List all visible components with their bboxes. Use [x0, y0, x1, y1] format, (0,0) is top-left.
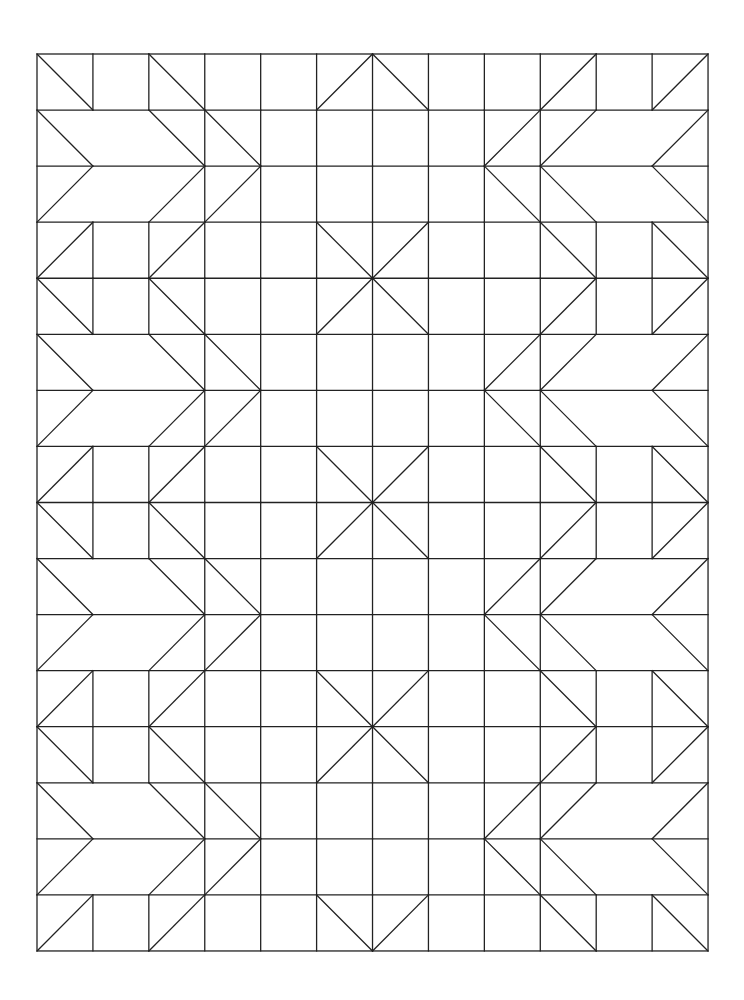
diagonal-line: [652, 446, 708, 502]
diagonal-line: [540, 110, 596, 166]
diagonal-line: [205, 839, 261, 895]
diagonal-line: [540, 727, 596, 783]
diagonal-line: [652, 783, 708, 839]
diagonal-line: [540, 446, 596, 502]
diagonal-line: [652, 166, 708, 222]
diagonal-line: [205, 615, 261, 671]
diagonal-line: [317, 278, 373, 334]
diagonal-line: [373, 278, 429, 334]
diagonal-line: [149, 502, 205, 558]
diagonal-line: [205, 110, 261, 166]
diagonal-line: [37, 727, 93, 783]
diagonal-line: [540, 502, 596, 558]
diagonal-line: [37, 615, 93, 671]
diagonal-line: [37, 166, 93, 222]
diagonal-line: [149, 166, 205, 222]
diagonal-line: [205, 390, 261, 446]
diagonal-line: [373, 671, 429, 727]
diagonal-line: [652, 671, 708, 727]
diagonal-line: [484, 559, 540, 615]
diagonal-line: [37, 559, 93, 615]
diagonal-line: [652, 615, 708, 671]
diagonal-line: [149, 559, 205, 615]
diagonal-line: [540, 839, 596, 895]
diagonal-line: [540, 559, 596, 615]
diagonal-line: [484, 390, 540, 446]
diagonal-line: [205, 334, 261, 390]
diagonal-line: [652, 222, 708, 278]
diagonal-line: [373, 446, 429, 502]
diagonal-line: [373, 54, 429, 110]
diagonal-line: [149, 895, 205, 951]
diagonal-line: [205, 559, 261, 615]
diagonal-line: [149, 727, 205, 783]
diagonal-line: [652, 727, 708, 783]
diagonal-line: [37, 839, 93, 895]
diagonal-line: [149, 54, 205, 110]
diagonal-line: [149, 390, 205, 446]
diagonal-line: [540, 54, 596, 110]
diagonal-line: [37, 783, 93, 839]
diagonal-line: [540, 895, 596, 951]
diagonal-line: [37, 334, 93, 390]
diagonal-line: [149, 278, 205, 334]
diagonal-line: [652, 390, 708, 446]
diagonal-line: [37, 222, 93, 278]
diagonal-line: [317, 446, 373, 502]
diagonal-line: [652, 559, 708, 615]
diagonal-line: [149, 783, 205, 839]
diagonal-line: [37, 895, 93, 951]
diagonal-line: [484, 839, 540, 895]
diagonal-line: [652, 839, 708, 895]
diagonal-line: [149, 222, 205, 278]
diagonal-line: [540, 615, 596, 671]
diagonal-line: [540, 222, 596, 278]
diagonal-line: [540, 278, 596, 334]
diagonal-line: [540, 334, 596, 390]
diagonal-line: [373, 222, 429, 278]
diagonal-line: [652, 110, 708, 166]
diagonal-line: [205, 783, 261, 839]
diagonal-line: [652, 278, 708, 334]
diagonal-line: [37, 502, 93, 558]
diagonal-line: [317, 727, 373, 783]
diagonal-line: [37, 390, 93, 446]
diagonal-line: [37, 54, 93, 110]
diagonal-line: [373, 895, 429, 951]
diagonal-line: [484, 166, 540, 222]
quilt-line-drawing: [0, 0, 744, 1000]
diagonal-line: [317, 895, 373, 951]
diagonal-line: [652, 502, 708, 558]
diagonal-line: [317, 502, 373, 558]
diagonal-line: [484, 783, 540, 839]
diagonal-line: [484, 615, 540, 671]
diagonal-line: [37, 110, 93, 166]
diagonal-line: [37, 671, 93, 727]
diagonal-line: [149, 671, 205, 727]
diagonal-line: [205, 166, 261, 222]
diagonal-line: [37, 446, 93, 502]
diagonal-line: [540, 166, 596, 222]
diagonal-line: [149, 839, 205, 895]
diagonal-line: [540, 390, 596, 446]
diagonal-line: [149, 334, 205, 390]
diagonal-line: [317, 54, 373, 110]
diagonal-line: [37, 278, 93, 334]
diagonal-line: [149, 615, 205, 671]
diagonal-line: [652, 895, 708, 951]
diagonal-line: [540, 783, 596, 839]
diagonal-line: [317, 222, 373, 278]
diagonal-line: [373, 727, 429, 783]
diagonal-line: [317, 671, 373, 727]
diagonal-line: [652, 54, 708, 110]
diagonal-line: [484, 334, 540, 390]
diagonal-line: [149, 446, 205, 502]
diagonal-line: [373, 502, 429, 558]
diagonal-line: [149, 110, 205, 166]
diagonal-line: [652, 334, 708, 390]
diagonal-line: [540, 671, 596, 727]
diagonal-line: [484, 110, 540, 166]
